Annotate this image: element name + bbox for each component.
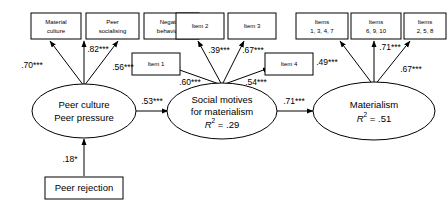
diagram-canvas: Material culture Peer socialising Negati… [0,0,448,204]
indicator-box-peer-socialising: Peer socialising [86,13,139,39]
coefficient-loading-items-1-3-4-7: .49*** [316,57,338,67]
indicator-label-line1: Items [315,19,330,25]
indicator-box-items-6-9-10: Items 6, 9, 10 [351,13,401,39]
indicator-label-line1: Items [369,19,384,25]
loading-line-items-1-3-4-7 [340,41,374,86]
latent-label-line1: Social motives [191,94,252,105]
coefficient-loading-item-3: .67*** [242,45,264,55]
latent-label-line1: Materialism [350,99,399,110]
latent-r2-materialism: R2 = .51 [357,111,392,123]
indicator-label-line1: Item 1 [148,61,165,67]
r2-value: = .29 [215,119,239,130]
indicator-label-line1: Peer [106,19,119,25]
indicator-box-item-4: Item 4 [265,53,313,75]
indicator-box-items-2-5-8: Items 2, 5, 8 [404,13,446,39]
indicator-label-line2: 6, 9, 10 [366,28,387,34]
coefficient-loading-item-1: .60*** [179,77,201,87]
indicator-label-line1: Item 4 [281,61,298,67]
indicator-label-line1: Items [418,19,433,25]
coefficient-loading-item-4: .54*** [245,77,267,87]
coefficient-loading-material-culture: .70*** [21,60,43,70]
coefficient-loading-negative-behaviours: .56*** [112,62,134,72]
indicator-label-line1: Item 3 [244,23,261,29]
indicator-label-line2: 1, 3, 4, 7 [310,28,334,34]
latent-ellipse-social-motives: Social motives for materialism R2 = .29 [167,83,277,139]
sem-path-diagram: Material culture Peer socialising Negati… [0,0,448,204]
latent-ellipse-peer-culture: Peer culture Peer pressure [32,84,136,138]
coefficient-path-peerculture-socialmotives: .53*** [141,96,163,106]
loading-line-material-culture [50,41,84,86]
indicator-box-material-culture: Material culture [31,13,81,39]
coefficient-loading-items-6-9-10: .71*** [379,42,401,52]
indicator-box-item-1: Item 1 [132,53,180,75]
latent-label-line2: for materialism [191,106,253,117]
latent-r2-social-motives: R2 = .29 [205,117,240,129]
observed-label-peer-rejection: Peer rejection [55,182,114,193]
r2-value: = .51 [367,113,391,124]
indicator-box-items-1-3-4-7: Items 1, 3, 4, 7 [296,13,348,39]
coefficient-loading-peer-socialising: .82*** [87,44,109,54]
coefficient-loading-item-2: .39*** [208,45,230,55]
indicator-label-line1: Material [45,19,66,25]
latent-label-line1: Peer culture [58,99,109,110]
observed-box-peer-rejection: Peer rejection [45,177,123,199]
latent-label-line2: Peer pressure [54,112,114,123]
coefficient-path-peerrejection-peerculture: .18* [62,154,78,164]
coefficient-path-socialmotives-materialism: .71*** [283,96,305,106]
indicator-box-item-3: Item 3 [228,13,276,39]
indicator-label-line2: culture [47,28,66,34]
indicator-box-item-2: Item 2 [176,13,224,39]
indicator-label-line2: 2, 5, 8 [417,28,434,34]
latent-ellipse-materialism: Materialism R2 = .51 [313,82,435,140]
indicator-label-line1: Item 2 [192,23,209,29]
coefficient-loading-items-2-5-8: .67*** [400,64,422,74]
indicator-label-line2: socialising [99,28,127,34]
